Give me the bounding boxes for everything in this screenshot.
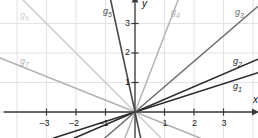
y-axis-arrowhead [132, 0, 139, 2]
line-label-g7: g7 [20, 57, 29, 68]
line-label-g3: g3 [235, 8, 244, 19]
y-axis-name: y [142, 0, 147, 9]
x-axis-tick-label--2: –2 [69, 119, 79, 128]
line-label-g5: g5 [103, 7, 112, 18]
y-axis-tick-label-1: 1 [125, 78, 130, 87]
y-axis-tick-label-3: 3 [125, 19, 130, 28]
x-axis-tick-label--3: –3 [40, 119, 50, 128]
line-label-g1: g1 [233, 82, 242, 93]
line-graph-figure: –3–2–1123123xyg1g2g3g4g5g6g7 [0, 0, 258, 138]
x-axis-tick-label-3: 3 [222, 119, 227, 128]
line-label-g4: g4 [171, 8, 180, 19]
line-label-g6: g6 [20, 11, 29, 22]
line-label-g2: g2 [233, 57, 242, 68]
x-axis-tick-label--1: –1 [99, 119, 109, 128]
x-axis-tick-label-1: 1 [163, 119, 168, 128]
x-axis-tick-label-2: 2 [192, 119, 197, 128]
y-axis-tick-label-2: 2 [125, 48, 130, 57]
x-axis-name: x [253, 95, 258, 105]
